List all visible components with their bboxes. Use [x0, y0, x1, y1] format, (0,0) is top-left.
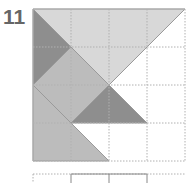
tangram-grid-diagram [0, 0, 186, 183]
next-puzzle-preview [33, 174, 185, 183]
